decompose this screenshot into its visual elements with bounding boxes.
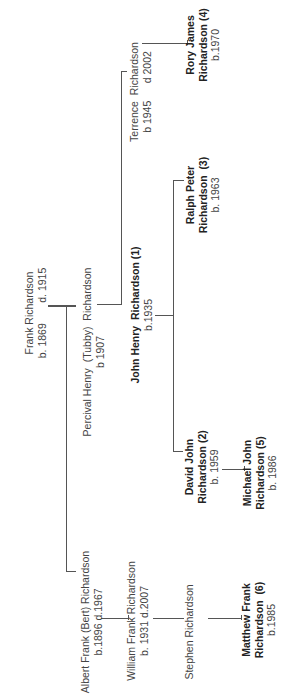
person-dates: b. 1959 xyxy=(208,430,221,504)
person-dates: b.1935 xyxy=(141,246,154,383)
person-name: Stephen Richardson xyxy=(183,584,196,679)
person-name-line1: David John xyxy=(183,430,196,504)
person-dates: b. 1931 d.2007 xyxy=(137,561,150,681)
person-dates: b. 1963 xyxy=(209,157,222,233)
person-name-line1: Matthew Frank xyxy=(240,582,253,658)
connector-john-children-bar xyxy=(173,180,174,451)
person-name-line1: Ralph Peter xyxy=(184,157,197,233)
person-name-line2: Richardson (2) xyxy=(196,430,209,504)
person-name: John Henry Richardson (1) xyxy=(129,246,142,383)
person-name: Frank Richardson xyxy=(23,268,36,359)
connector-to-david xyxy=(173,451,183,452)
connector-frank-children-bar xyxy=(66,305,67,571)
person-dates: b. 1869 d. 1915 xyxy=(35,268,48,359)
person-dates: b 1945 d 2002 xyxy=(140,42,153,142)
connector-stephen-to-matthew xyxy=(208,618,242,619)
person-name: Terrence Richardson xyxy=(128,42,141,142)
family-tree-diagram: Frank Richardson b. 1869 d. 1915 Albert … xyxy=(0,0,290,695)
connector-to-terrence xyxy=(121,71,127,72)
person-dates: b.1896 d.1967 xyxy=(91,551,104,693)
connector-to-ralph xyxy=(173,180,184,181)
connector-william-to-stephen xyxy=(153,618,184,619)
person-name: William Frank Richardson xyxy=(125,561,138,681)
person-name: Albert Frank (Bert) Richardson xyxy=(79,551,92,693)
person-dates: b.1970 xyxy=(209,8,222,82)
person-name-line1: Michael John xyxy=(241,436,254,510)
person-dates: b. 1986 xyxy=(266,436,279,510)
connector-frank-out xyxy=(48,305,76,307)
person-name-line2: Richardson (6) xyxy=(253,582,266,658)
person-name-line2: Richardson (5) xyxy=(254,436,267,510)
person-name-line2: Richardson (4) xyxy=(197,8,210,82)
connector-to-albert xyxy=(66,571,76,572)
person-dates: b 1907 xyxy=(93,268,106,437)
person-name: Percival Henry (Tubby) Richardson xyxy=(81,268,94,437)
person-name-line2: Richardson (3) xyxy=(197,157,210,233)
connector-percival-children-bar xyxy=(121,71,122,305)
person-dates: b.1985 xyxy=(265,582,278,658)
person-name-line1: Rory James xyxy=(184,8,197,82)
connector-john-out xyxy=(155,315,174,316)
